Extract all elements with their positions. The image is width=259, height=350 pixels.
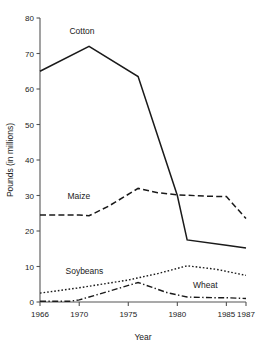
x-tick-label: 1970 — [70, 310, 88, 319]
y-tick-label: 70 — [25, 50, 34, 59]
series-label-soybeans: Soybeans — [66, 266, 104, 276]
y-tick-label: 50 — [25, 121, 34, 130]
y-tick-label: 30 — [25, 192, 34, 201]
line-chart: 0102030405060708019661970197519801985198… — [0, 0, 259, 350]
x-tick-label: 1987 — [237, 310, 255, 319]
series-label-maize: Maize — [67, 191, 90, 201]
x-tick-label: 1975 — [119, 310, 137, 319]
y-tick-label: 10 — [25, 263, 34, 272]
y-axis-title: Pounds (in millions) — [5, 123, 15, 197]
y-tick-label: 0 — [30, 298, 35, 307]
x-tick-label: 1985 — [217, 310, 235, 319]
y-tick-label: 40 — [25, 156, 34, 165]
y-tick-label: 60 — [25, 85, 34, 94]
series-label-wheat: Wheat — [193, 280, 218, 290]
x-tick-label: 1980 — [168, 310, 186, 319]
series-line-cotton — [40, 46, 246, 248]
chart-canvas: 0102030405060708019661970197519801985198… — [0, 0, 259, 350]
x-tick-label: 1966 — [31, 310, 49, 319]
y-tick-label: 80 — [25, 14, 34, 23]
y-tick-label: 20 — [25, 227, 34, 236]
series-label-cotton: Cotton — [69, 26, 94, 36]
x-axis-title: Year — [134, 332, 151, 342]
